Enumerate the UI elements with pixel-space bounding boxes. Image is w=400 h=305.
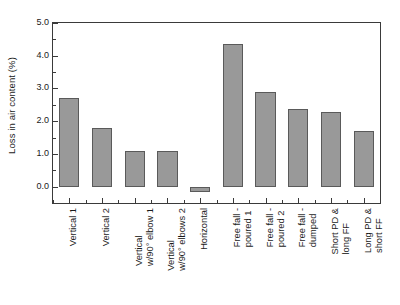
x-tick-major bbox=[102, 198, 103, 203]
x-tick-minor bbox=[315, 200, 316, 203]
x-tick-minor bbox=[249, 200, 250, 203]
x-tick-minor bbox=[184, 200, 185, 203]
bar bbox=[354, 131, 374, 187]
plot-area bbox=[52, 22, 381, 204]
bar bbox=[92, 128, 112, 187]
y-tick-major bbox=[53, 56, 58, 57]
bar bbox=[125, 151, 145, 187]
x-tick-label-line1: Short PD & bbox=[330, 208, 340, 255]
y-tick-label: 5.0 bbox=[23, 18, 49, 27]
x-tick-label: Verticalw/90° elbows 2 bbox=[150, 206, 183, 305]
x-tick-label-line1: Vertical 1 bbox=[68, 208, 78, 246]
x-tick-label: Horizontal bbox=[183, 206, 216, 305]
x-tick-label-line1: Vertical bbox=[166, 240, 176, 271]
y-tick-minor bbox=[53, 170, 56, 171]
x-tick-major bbox=[364, 198, 365, 203]
y-tick-major bbox=[53, 121, 58, 122]
x-tick-major bbox=[331, 198, 332, 203]
y-tick-label: 3.0 bbox=[23, 83, 49, 92]
x-tick-major bbox=[69, 198, 70, 203]
x-tick-major bbox=[167, 198, 168, 203]
bar bbox=[321, 112, 341, 187]
x-tick-label: Vertical 2 bbox=[85, 206, 118, 305]
x-tick-label: Verticalw/90° elbow 1 bbox=[117, 206, 150, 305]
x-tick-major bbox=[233, 198, 234, 203]
x-tick-label: Free fall -poured 1 bbox=[216, 206, 249, 305]
plot-inner bbox=[53, 23, 380, 203]
bar bbox=[223, 44, 243, 186]
x-tick-label-line1: Vertical 2 bbox=[101, 208, 111, 246]
y-tick-major bbox=[53, 23, 58, 24]
x-tick-label-line1: Vertical bbox=[134, 235, 144, 266]
y-axis-title-text: Loss in air content (%) bbox=[6, 57, 17, 154]
y-tick-minor bbox=[53, 39, 56, 40]
x-tick-major bbox=[200, 198, 201, 203]
y-axis-tick-labels: 0.01.02.03.04.05.0 bbox=[20, 0, 49, 305]
x-tick-label: Short PD &long FF bbox=[314, 206, 347, 305]
y-tick-major bbox=[53, 154, 58, 155]
x-tick-minor bbox=[86, 200, 87, 203]
y-tick-minor bbox=[53, 105, 56, 106]
y-tick-label: 4.0 bbox=[23, 50, 49, 59]
x-tick-major bbox=[298, 198, 299, 203]
x-tick-label: Free fall -dumped bbox=[281, 206, 314, 305]
bar bbox=[190, 187, 210, 192]
x-tick-minor bbox=[380, 200, 381, 203]
bar bbox=[59, 98, 79, 186]
y-tick-minor bbox=[53, 138, 56, 139]
bar bbox=[255, 92, 275, 187]
x-tick-minor bbox=[282, 200, 283, 203]
y-tick-label: 0.0 bbox=[23, 181, 49, 190]
bar bbox=[157, 151, 177, 187]
y-tick-major bbox=[53, 187, 58, 188]
x-tick-label-line2: short FF bbox=[373, 208, 384, 253]
x-tick-label: Long PD &short FF bbox=[346, 206, 379, 305]
bar bbox=[288, 109, 308, 187]
x-tick-label-line1: Long PD & bbox=[363, 208, 373, 253]
x-tick-label-line1: Free fall - bbox=[232, 208, 242, 247]
y-tick-major bbox=[53, 88, 58, 89]
x-tick-label-line1: Free fall - bbox=[297, 208, 307, 247]
x-tick-label: Free fall -poured 2 bbox=[248, 206, 281, 305]
x-tick-minor bbox=[53, 200, 54, 203]
y-tick-label: 2.0 bbox=[23, 116, 49, 125]
x-tick-label-line1: Free fall - bbox=[265, 208, 275, 247]
y-tick-label: 1.0 bbox=[23, 148, 49, 157]
x-axis-tick-labels: Vertical 1Vertical 2Verticalw/90° elbow … bbox=[52, 206, 381, 305]
y-tick-minor bbox=[53, 72, 56, 73]
x-tick-label: Vertical 1 bbox=[52, 206, 85, 305]
y-axis-title: Loss in air content (%) bbox=[0, 0, 22, 210]
x-tick-minor bbox=[151, 200, 152, 203]
x-tick-major bbox=[266, 198, 267, 203]
x-tick-minor bbox=[118, 200, 119, 203]
bar-chart: Loss in air content (%) 0.01.02.03.04.05… bbox=[0, 0, 400, 305]
x-tick-minor bbox=[217, 200, 218, 203]
x-tick-minor bbox=[347, 200, 348, 203]
x-tick-major bbox=[135, 198, 136, 203]
x-tick-label-line1: Horizontal bbox=[199, 208, 209, 250]
